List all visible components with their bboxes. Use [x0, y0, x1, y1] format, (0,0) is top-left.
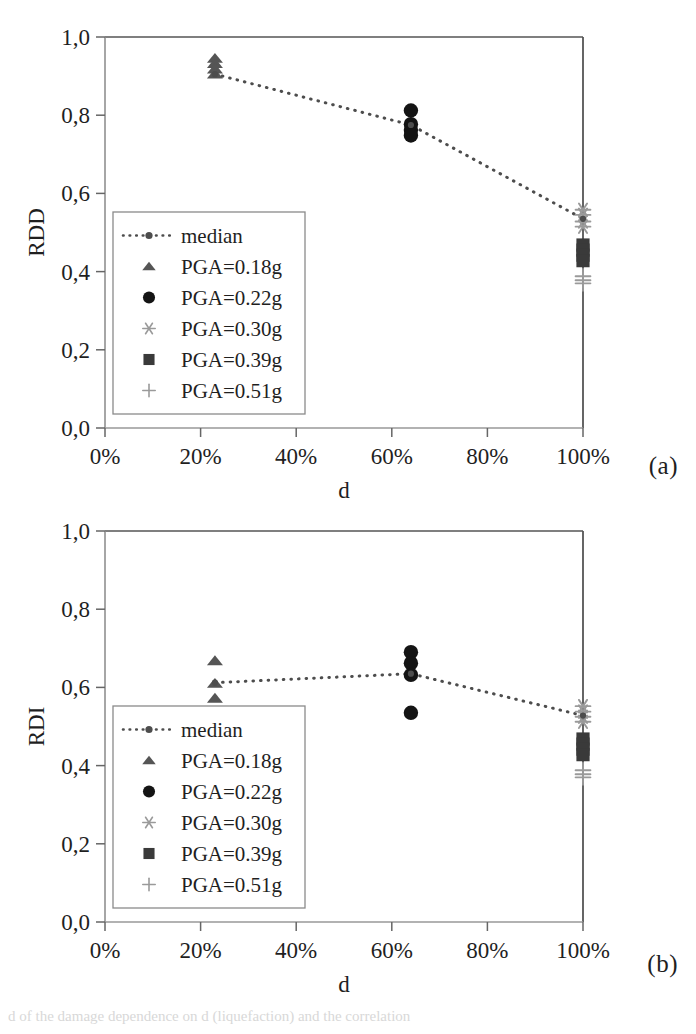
y-tick-label: 0,2: [61, 832, 90, 857]
rdd-scatter-plot: 0,00,20,40,60,81,00%20%40%60%80%100%dRDD…: [0, 0, 696, 500]
y-axis: 0,00,20,40,60,81,0: [61, 519, 105, 935]
legend-item-label: PGA=0.22g: [181, 286, 283, 310]
x-axis-title: d: [338, 972, 350, 994]
y-axis-title: RDI: [24, 707, 49, 747]
y-tick-label: 0,0: [61, 910, 90, 935]
x-tick-label: 100%: [556, 444, 610, 469]
x-axis: 0%20%40%60%80%100%: [90, 428, 610, 469]
legend-item-label: PGA=0.22g: [181, 780, 283, 804]
legend-item-label: PGA=0.30g: [181, 811, 283, 835]
legend: medianPGA=0.18gPGA=0.22gPGA=0.30gPGA=0.3…: [113, 706, 305, 908]
legend-item-label: median: [181, 718, 243, 742]
y-tick-label: 1,0: [61, 519, 90, 544]
x-tick-label: 40%: [275, 938, 317, 963]
x-tick-label: 0%: [90, 938, 121, 963]
data-series-pga039g: [576, 732, 589, 761]
panel-label-b: (b): [647, 950, 678, 978]
legend-item-label: PGA=0.51g: [181, 379, 283, 403]
x-tick-label: 80%: [466, 938, 508, 963]
x-tick-label: 60%: [371, 938, 413, 963]
chart-panel-rdi: 0,00,20,40,60,81,00%20%40%60%80%100%dRDI…: [0, 494, 696, 994]
y-tick-label: 0,4: [61, 260, 90, 285]
x-tick-label: 20%: [180, 444, 222, 469]
x-tick-label: 20%: [180, 938, 222, 963]
median-node-dots: [212, 71, 586, 222]
y-tick-label: 0,4: [61, 754, 90, 779]
legend-item-label: PGA=0.18g: [181, 749, 283, 773]
y-axis: 0,00,20,40,60,81,0: [61, 25, 105, 441]
y-tick-label: 0,6: [61, 181, 90, 206]
y-tick-label: 0,0: [61, 416, 90, 441]
legend-item-label: PGA=0.30g: [181, 317, 283, 341]
panel-label-a: (a): [649, 452, 678, 480]
y-tick-label: 0,2: [61, 338, 90, 363]
y-tick-label: 0,8: [61, 103, 90, 128]
figure-two-scatter-panels: 0,00,20,40,60,81,00%20%40%60%80%100%dRDD…: [0, 0, 696, 1034]
legend-item-label: median: [181, 224, 243, 248]
data-series-pga022g: [404, 645, 418, 720]
legend-item-label: PGA=0.39g: [181, 348, 283, 372]
figure-caption-fragment: d of the damage dependence on d (liquefa…: [8, 1008, 692, 1028]
legend-item-label: PGA=0.51g: [181, 873, 283, 897]
x-tick-label: 0%: [90, 444, 121, 469]
legend-item-label: PGA=0.18g: [181, 255, 283, 279]
data-series-pga051g: [576, 763, 591, 785]
rdi-scatter-plot: 0,00,20,40,60,81,00%20%40%60%80%100%dRDI…: [0, 494, 696, 994]
median-trend-line: [215, 74, 583, 219]
y-tick-label: 0,8: [61, 597, 90, 622]
legend-item-label: PGA=0.39g: [181, 842, 283, 866]
y-axis-title: RDD: [24, 208, 49, 257]
y-tick-label: 0,6: [61, 675, 90, 700]
x-tick-label: 60%: [371, 444, 413, 469]
y-tick-label: 1,0: [61, 25, 90, 50]
x-tick-label: 100%: [556, 938, 610, 963]
legend: medianPGA=0.18gPGA=0.22gPGA=0.30gPGA=0.3…: [113, 212, 305, 414]
x-axis: 0%20%40%60%80%100%: [90, 922, 610, 963]
data-series-pga051g: [576, 269, 591, 291]
data-series-pga018g: [207, 655, 223, 702]
data-series-pga039g: [576, 238, 589, 267]
x-tick-label: 40%: [275, 444, 317, 469]
chart-panel-rdd: 0,00,20,40,60,81,00%20%40%60%80%100%dRDD…: [0, 0, 696, 500]
x-tick-label: 80%: [466, 444, 508, 469]
